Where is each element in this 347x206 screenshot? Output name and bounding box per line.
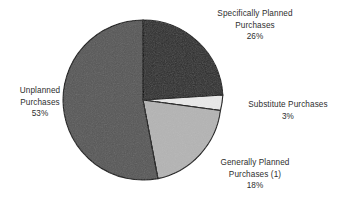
pie-label-line1: Substitute Purchases	[232, 99, 344, 111]
pie-label-line1: Generally Planned	[196, 157, 314, 169]
pie-label-line2: Purchases (1)	[196, 169, 314, 181]
pie-label-value: 18%	[196, 180, 314, 192]
pie-label-substitute: Substitute Purchases 3%	[232, 99, 344, 122]
pie-label-unplanned: Unplanned Purchases 53%	[4, 85, 76, 120]
pie-label-value: 26%	[196, 31, 314, 43]
pie-label-value: 53%	[4, 108, 76, 120]
pie-label-line1: Unplanned	[4, 85, 76, 97]
pie-label-line2: Purchases	[4, 97, 76, 109]
pie-label-value: 3%	[232, 111, 344, 123]
pie-label-generally-planned: Generally Planned Purchases (1) 18%	[196, 157, 314, 192]
pie-label-line1: Specifically Planned	[196, 8, 314, 20]
pie-chart-figure: Specifically Planned Purchases 26% Subst…	[0, 0, 347, 206]
pie-label-specifically-planned: Specifically Planned Purchases 26%	[196, 8, 314, 43]
pie-label-line2: Purchases	[196, 20, 314, 32]
